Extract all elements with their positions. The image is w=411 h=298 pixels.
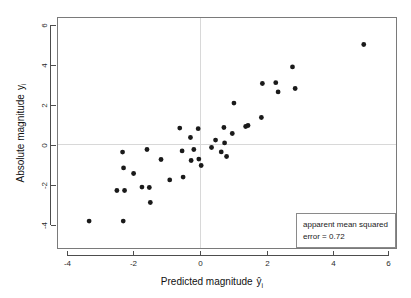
- plot-canvas: 6 4 2 0 -2 -4 Absolute magnitudeyi: [0, 0, 411, 298]
- data-point: [189, 158, 194, 163]
- data-point: [120, 150, 125, 155]
- data-point: [140, 185, 145, 190]
- annotation-legend: apparent mean squared error = 0.72: [297, 214, 396, 248]
- annotation-legend-box: [297, 214, 396, 248]
- y-axis-title: Absolute magnitudeyi: [15, 83, 27, 182]
- data-point: [159, 157, 164, 162]
- x-tick-label-neg2: -2: [130, 259, 138, 268]
- data-point: [199, 163, 204, 168]
- y-tick-label-0: 0: [40, 143, 49, 148]
- y-axis-title-group: Absolute magnitudeyi: [15, 83, 27, 182]
- data-point: [224, 154, 229, 159]
- data-point: [213, 138, 218, 143]
- data-point: [147, 185, 152, 190]
- data-point: [232, 101, 237, 106]
- data-point: [276, 90, 281, 95]
- x-axis-ticks: [68, 251, 389, 256]
- data-point: [259, 115, 264, 120]
- y-tick-label-neg2: -2: [40, 181, 49, 189]
- data-point: [148, 200, 153, 205]
- x-axis-title-main: Predicted magnitude: [161, 276, 253, 287]
- data-point: [230, 131, 235, 136]
- x-tick-label-2: 2: [265, 259, 270, 268]
- data-point: [246, 123, 251, 128]
- data-point: [131, 171, 136, 176]
- x-axis: -4 -2 0 2 4 6 Predicted magnitudeŷi: [64, 251, 391, 289]
- y-axis-ticks: [51, 26, 56, 226]
- data-point: [177, 126, 182, 131]
- data-point: [260, 81, 265, 86]
- data-point: [196, 157, 201, 162]
- y-tick-label-4: 4: [40, 63, 49, 68]
- data-point: [122, 188, 127, 193]
- x-tick-label-neg4: -4: [64, 259, 72, 268]
- y-axis-title-subscript: i: [19, 83, 26, 85]
- data-point: [121, 219, 126, 224]
- x-axis-tick-labels: -4 -2 0 2 4 6: [64, 259, 391, 268]
- data-point: [219, 150, 224, 155]
- data-point: [222, 141, 227, 146]
- data-point: [209, 145, 214, 150]
- x-tick-label-6: 6: [386, 259, 391, 268]
- y-axis: 6 4 2 0 -2 -4 Absolute magnitudeyi: [15, 23, 56, 229]
- data-point: [121, 166, 126, 171]
- x-tick-label-0: 0: [198, 259, 203, 268]
- x-axis-title: Predicted magnitudeŷi: [161, 276, 264, 289]
- data-point: [167, 178, 172, 183]
- x-tick-label-4: 4: [331, 259, 336, 268]
- data-point: [222, 125, 227, 130]
- y-axis-title-main: Absolute magnitude: [15, 94, 26, 183]
- data-point: [361, 42, 366, 47]
- data-point: [293, 86, 298, 91]
- data-points-layer: [87, 42, 366, 223]
- scatter-plot-figure: 6 4 2 0 -2 -4 Absolute magnitudeyi: [0, 0, 411, 298]
- y-tick-label-6: 6: [40, 23, 49, 28]
- data-point: [145, 147, 150, 152]
- data-point: [114, 188, 119, 193]
- y-axis-tick-labels: 6 4 2 0 -2 -4: [40, 23, 49, 229]
- data-point: [191, 147, 196, 152]
- y-tick-label-2: 2: [40, 103, 49, 108]
- data-point: [273, 80, 278, 85]
- data-point: [196, 126, 201, 131]
- data-point: [290, 65, 295, 70]
- data-point: [181, 175, 186, 180]
- y-tick-label-neg4: -4: [40, 221, 49, 229]
- annotation-line-2: error = 0.72: [303, 232, 345, 241]
- data-point: [180, 149, 185, 154]
- annotation-line-1: apparent mean squared: [303, 220, 388, 229]
- x-axis-title-subscript: i: [262, 282, 264, 289]
- data-point: [188, 135, 193, 140]
- data-point: [87, 219, 92, 224]
